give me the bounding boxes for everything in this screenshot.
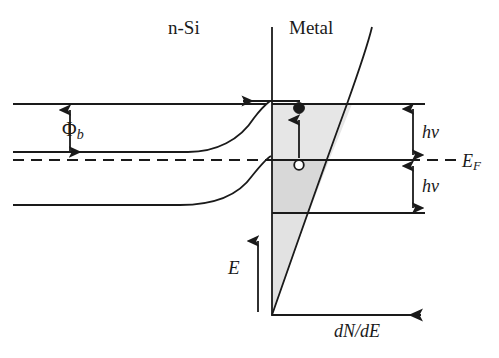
dos-shade-upper bbox=[272, 104, 352, 160]
valence-band-bending-curve bbox=[180, 156, 271, 205]
energy-axis-label: E bbox=[228, 258, 240, 277]
hole-icon bbox=[294, 160, 304, 170]
fermi-level-subscript: F bbox=[473, 158, 481, 173]
dos-axis-label: dN/dE bbox=[334, 322, 380, 340]
metal-label: Metal bbox=[289, 18, 333, 37]
barrier-height-label: Φb bbox=[62, 119, 84, 142]
fermi-level-symbol: E bbox=[462, 151, 473, 171]
band-diagram-figure: n-Si Metal Φb hv hv EF E dN/dE bbox=[0, 0, 499, 358]
photon-energy-arrows bbox=[405, 104, 421, 213]
barrier-height-symbol: Φ bbox=[62, 118, 77, 140]
fermi-level-label: EF bbox=[462, 152, 481, 172]
semiconductor-label: n-Si bbox=[168, 18, 200, 37]
photoexcited-electron-icon bbox=[294, 103, 305, 114]
photon-energy-lower-label: hv bbox=[422, 177, 439, 195]
barrier-height-subscript: b bbox=[77, 127, 84, 142]
semiconductor-bands bbox=[13, 101, 271, 205]
photon-energy-upper-label: hv bbox=[422, 123, 439, 141]
mid-band-bending-curve bbox=[188, 101, 270, 152]
